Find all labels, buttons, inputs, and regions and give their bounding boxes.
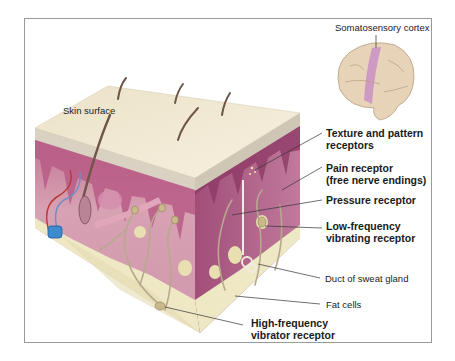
label-texture-receptors: Texture and pattern receptors [326, 127, 423, 151]
label-somatosensory-cortex: Somatosensory cortex [335, 22, 430, 33]
label-pressure-receptor: Pressure receptor [326, 194, 416, 206]
label-lowfreq-line2: vibrating receptor [326, 232, 415, 244]
label-sweat-duct: Duct of sweat gland [325, 273, 408, 284]
label-lowfreq-line1: Low-frequency [326, 220, 415, 232]
blood-vessel-cut [48, 226, 62, 238]
label-pain-receptor: Pain receptor (free nerve endings) [326, 162, 426, 186]
sebaceous-gland [98, 190, 122, 210]
label-pain-line1: Pain receptor [326, 162, 426, 174]
label-low-frequency-receptor: Low-frequency vibrating receptor [326, 220, 415, 244]
hair-follicle [79, 196, 91, 224]
label-skin-surface: Skin surface [63, 105, 115, 116]
label-high-frequency-receptor: High-frequency vibrator receptor [251, 317, 335, 341]
label-fat-cells: Fat cells [326, 299, 361, 310]
label-pain-line2: (free nerve endings) [326, 174, 426, 186]
brain-illustration [338, 43, 414, 120]
label-highfreq-line1: High-frequency [251, 317, 335, 329]
label-highfreq-line2: vibrator receptor [251, 329, 335, 341]
label-texture-line2: receptors [326, 139, 423, 151]
label-texture-line1: Texture and pattern [326, 127, 423, 139]
